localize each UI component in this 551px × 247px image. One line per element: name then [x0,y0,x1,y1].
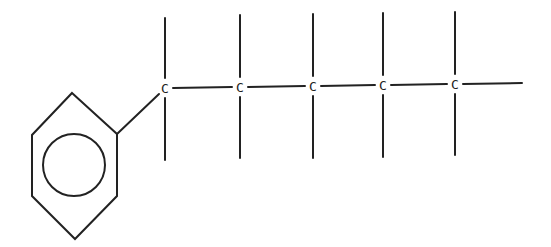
aromatic-circle [43,134,105,196]
carbon-atom-label: C [309,79,317,94]
benzene-ring [32,93,117,239]
carbon-atom-label: C [379,78,387,93]
chain-bond [173,87,232,88]
chain-bond [248,86,305,87]
carbon-atom-label: C [236,80,244,95]
carbon-chain: CCCCC [161,12,522,160]
chemical-structure-diagram: CCCCC [0,0,551,247]
terminal-bond [463,83,522,84]
carbon-atom-label: C [161,81,169,96]
ring-to-chain-bond [117,94,159,134]
chain-bond [391,84,447,85]
carbon-atom-label: C [451,77,459,92]
chain-bond [321,85,375,86]
